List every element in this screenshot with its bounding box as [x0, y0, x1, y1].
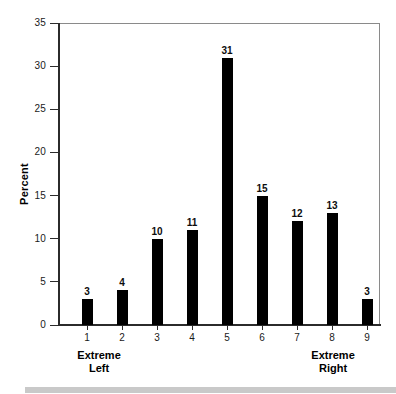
- y-axis-tick-label-text: 25: [18, 103, 46, 115]
- y-axis-tick-label-text: 5: [18, 276, 46, 288]
- x-axis-tick: [227, 326, 228, 330]
- footer-band: [25, 387, 396, 393]
- bar: [362, 299, 373, 325]
- bar-value-label: 15: [245, 183, 279, 194]
- x-axis-tick-label: 4: [175, 332, 209, 343]
- x-axis-tick-label: 8: [315, 332, 349, 343]
- bar: [187, 230, 198, 325]
- x-axis-tick: [367, 326, 368, 330]
- y-axis-tick-label: 20: [18, 146, 46, 158]
- y-axis-tick: [50, 23, 59, 24]
- x-axis-tick: [122, 326, 123, 330]
- x-axis-tick: [332, 326, 333, 330]
- y-axis-tick-label-text: 10: [18, 233, 46, 245]
- x-axis-tick-label: 9: [350, 332, 384, 343]
- bar: [257, 196, 268, 325]
- y-axis-tick: [50, 152, 59, 153]
- x-axis-tick: [157, 326, 158, 330]
- y-axis-tick-label: 15: [18, 190, 46, 202]
- x-axis-tick-label: 1: [70, 332, 104, 343]
- bar: [292, 221, 303, 325]
- y-axis-tick: [50, 325, 59, 326]
- y-axis-tick-label-text: 30: [18, 60, 46, 72]
- annotation-extreme-left-line2: Left: [49, 362, 149, 375]
- y-axis-tick-label-text: 20: [18, 146, 46, 158]
- bar: [152, 239, 163, 325]
- x-axis-tick-label: 6: [245, 332, 279, 343]
- y-axis-tick-label: 35: [18, 17, 46, 29]
- x-axis-tick-label: 7: [280, 332, 314, 343]
- bar-value-label: 3: [70, 286, 104, 297]
- y-axis-tick-label: 10: [18, 233, 46, 245]
- y-axis-tick-label-text: 15: [18, 190, 46, 202]
- bar-value-label: 4: [105, 277, 139, 288]
- bar-chart-figure: Percent 05101520253035 341011311512133 1…: [0, 0, 396, 394]
- y-axis-tick: [50, 66, 59, 67]
- y-axis-tick-label: 30: [18, 60, 46, 72]
- annotation-extreme-right-line2: Right: [283, 362, 383, 375]
- bar: [82, 299, 93, 325]
- bar-value-label: 31: [210, 45, 244, 56]
- y-axis-tick: [50, 195, 59, 196]
- bar-value-label: 3: [350, 286, 384, 297]
- y-axis-tick-label: 0: [18, 319, 46, 331]
- bar: [222, 58, 233, 325]
- x-axis-tick-label: 5: [210, 332, 244, 343]
- y-axis-tick: [50, 281, 59, 282]
- annotation-extreme-right-line1: Extreme: [283, 349, 383, 362]
- x-axis-tick-label: 2: [105, 332, 139, 343]
- y-axis-tick-label-text: 35: [18, 17, 46, 29]
- bar-value-label: 13: [315, 200, 349, 211]
- bar-value-label: 10: [140, 226, 174, 237]
- x-axis-tick: [87, 326, 88, 330]
- x-axis-tick: [192, 326, 193, 330]
- y-axis-title: Percent: [18, 154, 30, 214]
- bar-value-label: 12: [280, 208, 314, 219]
- y-axis-tick-label: 25: [18, 103, 46, 115]
- y-axis-tick-label-text: 0: [18, 319, 46, 331]
- annotation-extreme-left-line1: Extreme: [49, 349, 149, 362]
- y-axis-tick: [50, 238, 59, 239]
- x-axis-tick-label: 3: [140, 332, 174, 343]
- y-axis-tick-label: 5: [18, 276, 46, 288]
- bar-value-label: 11: [175, 217, 209, 228]
- x-axis-tick: [262, 326, 263, 330]
- y-axis-tick: [50, 109, 59, 110]
- bar: [327, 213, 338, 325]
- annotation-extreme-right: Extreme Right: [283, 349, 383, 375]
- bar: [117, 290, 128, 325]
- x-axis-tick: [297, 326, 298, 330]
- annotation-extreme-left: Extreme Left: [49, 349, 149, 375]
